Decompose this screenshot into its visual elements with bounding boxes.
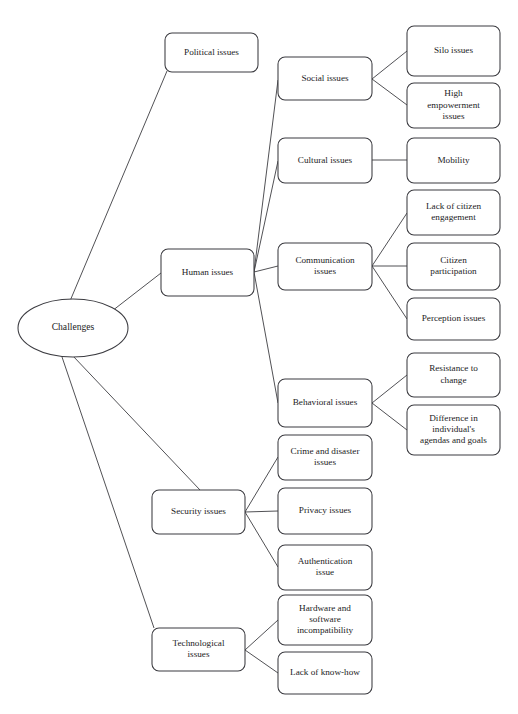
node-perception-issues[interactable]: Perception issues [407,298,500,340]
edge-behavioral-issues-to-resistance-to-change [372,375,407,403]
node-label-political-issues: Political issues [184,47,239,57]
node-technological-issues[interactable]: Technologicalissues [152,628,245,671]
node-label-security-issues: Security issues [171,506,226,516]
edge-challenges-to-human-issues [112,273,161,311]
node-label-lack-of-know-how: Lack of know-how [290,667,360,677]
node-lack-of-citizen-engagement[interactable]: Lack of citizenengagement [407,190,500,235]
node-political-issues[interactable]: Political issues [165,33,258,72]
edge-human-issues-to-behavioral-issues [254,272,278,403]
node-label-silo-issues: Silo issues [434,45,473,55]
edge-communication-issues-to-perception-issues [372,266,407,319]
node-behavioral-issues[interactable]: Behavioral issues [278,379,372,427]
node-label-challenges: Challenges [52,321,95,332]
node-authentication-issue[interactable]: Authenticationissue [278,545,372,590]
edge-security-issues-to-crime-disaster-issues [245,457,278,512]
node-privacy-issues[interactable]: Privacy issues [278,488,372,534]
edge-behavioral-issues-to-difference-in-individuals-agendas-and-goals [372,403,407,430]
challenges-mind-map-diagram: ChallengesPolitical issuesHuman issuesSe… [0,0,518,714]
node-difference-in-individuals-agendas-and-goals[interactable]: Difference inindividual'sagendas and goa… [407,405,500,455]
edge-technological-issues-to-lack-of-know-how [245,650,278,673]
node-label-privacy-issues: Privacy issues [299,505,352,515]
edge-communication-issues-to-lack-of-citizen-engagement [372,213,407,266]
node-social-issues[interactable]: Social issues [278,57,372,100]
node-label-lack-of-citizen-engagement: Lack of citizenengagement [426,201,481,222]
node-layer: ChallengesPolitical issuesHuman issuesSe… [18,26,500,694]
node-label-perception-issues: Perception issues [422,313,486,323]
node-label-mobility: Mobility [437,155,470,165]
edge-challenges-to-technological-issues [61,354,154,628]
node-resistance-to-change[interactable]: Resistance tochange [407,353,500,397]
edge-human-issues-to-communication-issues [254,266,278,272]
node-label-cultural-issues: Cultural issues [298,155,353,165]
diagram-canvas: ChallengesPolitical issuesHuman issuesSe… [0,0,518,714]
node-label-human-issues: Human issues [182,267,234,277]
edge-social-issues-to-high-empowerment-issues [372,79,407,105]
node-lack-of-know-how[interactable]: Lack of know-how [278,652,372,694]
node-hardware-software-incompatibility[interactable]: Hardware andsoftwareincompatibility [278,595,372,645]
node-challenges[interactable]: Challenges [18,299,128,357]
node-cultural-issues[interactable]: Cultural issues [278,138,372,183]
node-label-behavioral-issues: Behavioral issues [293,397,358,407]
node-human-issues[interactable]: Human issues [161,249,254,296]
edge-security-issues-to-authentication-issue [245,512,278,567]
edge-challenges-to-security-issues [73,356,200,490]
node-silo-issues[interactable]: Silo issues [407,26,500,76]
edge-social-issues-to-silo-issues [372,51,407,79]
node-communication-issues[interactable]: Communicationissues [278,243,372,290]
node-mobility[interactable]: Mobility [407,138,500,183]
node-crime-disaster-issues[interactable]: Crime and disasterissues [278,435,372,480]
node-citizen-participation[interactable]: Citizenparticipation [407,243,500,290]
edge-security-issues-to-privacy-issues [245,511,278,512]
edge-challenges-to-political-issues [70,71,167,301]
edge-technological-issues-to-hardware-software-incompatibility [245,620,278,650]
node-label-social-issues: Social issues [301,73,349,83]
node-security-issues[interactable]: Security issues [152,490,245,534]
node-high-empowerment-issues[interactable]: Highempowermentissues [407,83,500,128]
